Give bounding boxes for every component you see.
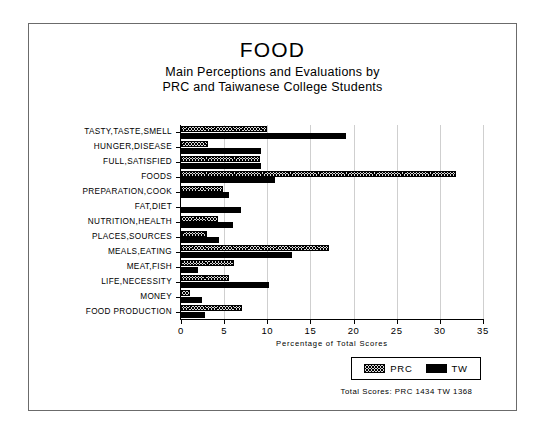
bar-prc bbox=[181, 260, 234, 266]
x-tick bbox=[440, 319, 441, 324]
gridline bbox=[483, 125, 484, 319]
x-tick-label: 0 bbox=[178, 325, 184, 336]
bar-prc bbox=[181, 126, 267, 132]
figure-frame: FOOD Main Perceptions and Evaluations by… bbox=[28, 23, 517, 411]
x-tick bbox=[267, 319, 268, 324]
bar-prc bbox=[181, 290, 190, 296]
y-tick bbox=[176, 252, 180, 253]
title-block: FOOD Main Perceptions and Evaluations by… bbox=[29, 38, 516, 96]
y-tick bbox=[176, 147, 180, 148]
x-tick-label: 15 bbox=[305, 325, 317, 336]
category-row: TASTY,TASTE,SMELL bbox=[181, 125, 483, 140]
x-tick-label: 10 bbox=[261, 325, 273, 336]
y-tick-label: FAT,DIET bbox=[135, 203, 172, 211]
y-tick-label: FOODS bbox=[141, 173, 172, 181]
x-tick bbox=[354, 319, 355, 324]
bar-tw bbox=[181, 252, 292, 258]
bar-prc bbox=[181, 141, 208, 147]
bar-tw bbox=[181, 163, 261, 169]
legend-swatch-prc-icon bbox=[364, 364, 385, 373]
x-tick bbox=[397, 319, 398, 324]
footnote: Total Scores: PRC 1434 TW 1368 bbox=[309, 387, 504, 396]
y-tick-label: LIFE,NECESSITY bbox=[101, 278, 172, 286]
y-tick-label: TASTY,TASTE,SMELL bbox=[84, 128, 172, 136]
bar-prc bbox=[181, 186, 223, 192]
y-tick bbox=[176, 222, 180, 223]
bar-prc bbox=[181, 305, 242, 311]
y-tick bbox=[176, 297, 180, 298]
bar-prc bbox=[181, 156, 260, 162]
chart-subtitle-line-1: Main Perceptions and Evaluations by bbox=[29, 65, 516, 80]
y-tick bbox=[176, 177, 180, 178]
plot-wrap: TASTY,TASTE,SMELLHUNGER,DISEASEFULL,SATI… bbox=[181, 125, 483, 319]
bar-prc bbox=[181, 216, 218, 222]
x-tick-label: 20 bbox=[348, 325, 360, 336]
category-row: LIFE,NECESSITY bbox=[181, 274, 483, 289]
y-tick-label: PREPARATION,COOK bbox=[83, 188, 172, 196]
chart-title: FOOD bbox=[29, 38, 516, 61]
bar-tw bbox=[181, 297, 202, 303]
y-tick-label: FOOD PRODUCTION bbox=[86, 307, 172, 315]
bar-prc bbox=[181, 171, 456, 177]
bar-tw bbox=[181, 207, 241, 213]
y-tick-label: PLACES,SOURCES bbox=[92, 233, 172, 241]
bar-prc bbox=[181, 275, 229, 281]
y-tick bbox=[176, 207, 180, 208]
category-row: PLACES,SOURCES bbox=[181, 229, 483, 244]
legend-label-tw: TW bbox=[452, 363, 468, 374]
legend-swatch-tw-icon bbox=[426, 364, 447, 373]
x-axis-label: Percentage of Total Scores bbox=[181, 339, 483, 348]
bar-tw bbox=[181, 177, 275, 183]
x-axis-line bbox=[180, 319, 484, 320]
y-tick-label: FULL,SATISFIED bbox=[103, 158, 172, 166]
y-tick bbox=[176, 237, 180, 238]
x-tick bbox=[224, 319, 225, 324]
bar-tw bbox=[181, 312, 205, 318]
x-tick-label: 25 bbox=[391, 325, 403, 336]
legend-entry-tw: TW bbox=[426, 363, 468, 374]
category-row: FULL,SATISFIED bbox=[181, 155, 483, 170]
y-tick-label: MEALS,EATING bbox=[108, 248, 172, 256]
x-tick bbox=[310, 319, 311, 324]
y-tick bbox=[176, 267, 180, 268]
chart-subtitle-line-2: PRC and Taiwanese College Students bbox=[29, 80, 516, 95]
bar-tw bbox=[181, 267, 198, 273]
bar-tw bbox=[181, 148, 261, 154]
bar-prc bbox=[181, 231, 207, 237]
y-tick bbox=[176, 132, 180, 133]
bar-tw bbox=[181, 133, 346, 139]
y-tick-label: HUNGER,DISEASE bbox=[94, 143, 172, 151]
legend-entry-prc: PRC bbox=[364, 363, 412, 374]
category-row: MONEY bbox=[181, 289, 483, 304]
bar-tw bbox=[181, 222, 233, 228]
plot-area: TASTY,TASTE,SMELLHUNGER,DISEASEFULL,SATI… bbox=[181, 125, 483, 319]
category-row: FAT,DIET bbox=[181, 200, 483, 215]
y-tick bbox=[176, 282, 180, 283]
category-row: FOODS bbox=[181, 170, 483, 185]
bar-tw bbox=[181, 282, 269, 288]
y-tick-label: MEAT,FISH bbox=[127, 263, 172, 271]
x-tick-label: 5 bbox=[221, 325, 227, 336]
bar-tw bbox=[181, 237, 219, 243]
legend: PRC TW bbox=[351, 357, 481, 380]
x-tick-label: 35 bbox=[477, 325, 489, 336]
bar-prc bbox=[181, 245, 329, 251]
y-tick bbox=[176, 312, 180, 313]
y-tick bbox=[176, 162, 180, 163]
category-row: PREPARATION,COOK bbox=[181, 185, 483, 200]
category-row: NUTRITION,HEALTH bbox=[181, 215, 483, 230]
bar-tw bbox=[181, 192, 229, 198]
x-tick bbox=[181, 319, 182, 324]
legend-label-prc: PRC bbox=[390, 363, 412, 374]
y-tick-label: NUTRITION,HEALTH bbox=[88, 218, 172, 226]
y-tick-label: MONEY bbox=[140, 292, 172, 300]
x-tick-label: 30 bbox=[434, 325, 446, 336]
category-row: MEAT,FISH bbox=[181, 259, 483, 274]
y-tick bbox=[176, 192, 180, 193]
x-tick bbox=[483, 319, 484, 324]
category-row: FOOD PRODUCTION bbox=[181, 304, 483, 319]
category-row: HUNGER,DISEASE bbox=[181, 140, 483, 155]
category-row: MEALS,EATING bbox=[181, 244, 483, 259]
